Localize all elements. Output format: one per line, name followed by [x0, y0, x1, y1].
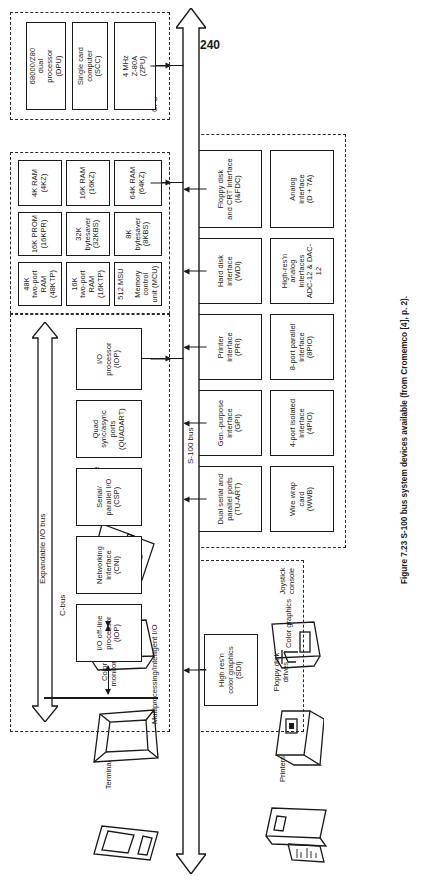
c-bus-top-link [44, 697, 59, 699]
box-serial-parallel-csp: Serial/ parallel I/O (CSP) [76, 468, 142, 526]
arrow-cbus-iop-offline [108, 666, 109, 694]
box-iop-offline: I/O off-line processor (IOP) [76, 604, 142, 662]
arrow-s100-tuart [185, 499, 207, 500]
c-bus-spine [58, 698, 158, 699]
box-io-processor-iop: I/O processor (IOP) [76, 328, 142, 390]
box-scc: Single card computer (SCC) [72, 22, 108, 110]
box-4pio: 4-port isolated interface (4PIO) [270, 390, 334, 456]
figure-page: Printers Terminal [0, 0, 432, 884]
box-16k-two-port-ram: 16K two-port RAM (16KTP) [66, 262, 110, 306]
printers-icon [262, 802, 336, 866]
box-quadart: Quad sync/async ports (QUADART) [76, 400, 142, 458]
c-bus-label: C-bus [58, 595, 67, 616]
box-32k-bytesaver: 32K bytesaver (32KBS) [66, 212, 110, 256]
arrow-s100-pri [185, 347, 207, 348]
box-8k-bytesaver: 8K bytesaver (8KBS) [114, 212, 162, 256]
arrow-memory-s100 [151, 183, 171, 184]
page-number: 240 [200, 38, 220, 52]
box-adc-dac: High-res'n analog interfaces ADC-12 & DA… [270, 238, 334, 304]
box-8pio: 8-port parallel interface (8PIO) [270, 314, 334, 380]
c-bus-rail [58, 698, 59, 699]
box-48k-two-port-ram: 48K two-port RAM (48KTP) [18, 262, 62, 306]
box-wwb: Wire wrap card (WWB) [270, 466, 334, 532]
c-bus-rail-v [58, 697, 158, 698]
box-16k-ram: 16K RAM (16KZ) [66, 160, 110, 206]
box-dpu: 68000/Z80 dual processor (DPU) [26, 22, 66, 110]
group-multiprocessing-title: Multiprocessing/Intelligent I/O [150, 624, 159, 724]
box-wdi: Hard disk interface (WDI) [198, 238, 262, 304]
figure-caption: Figure 7.23 S-100 bus system devices ava… [400, 296, 409, 584]
box-4k-ram: 4K RAM (4KZ) [18, 160, 62, 206]
arrow-s100-ifdc [185, 189, 207, 190]
arrow-s100-gpi [185, 423, 207, 424]
box-high-res-color-graphics-sdi: High res'n color graphics (SDI) [204, 634, 258, 706]
arrow-iop-s100 [151, 359, 171, 360]
box-512-msu-mcu: 512 MSU Memory control unit (MCU) [114, 262, 162, 306]
box-gpi: Gen.-purpose interface (GPI) [198, 390, 262, 456]
box-16k-prom: 16K PROM (16KPR) [18, 212, 62, 256]
box-networking-cni: Networking interface (CNI) [76, 536, 142, 594]
arrow-s100-sdi [185, 670, 207, 671]
box-tu-art: Dual serial and parallel ports (TU-ART) [198, 466, 262, 532]
arrow-s100-wdi [185, 271, 207, 272]
arrow-cpu-s100 [151, 66, 171, 67]
group-color-graphics-title: Color graphics [284, 599, 293, 648]
expandable-io-bus-label: Expandable I/O bus [38, 514, 47, 584]
box-pri: Printer interface (PRI) [198, 314, 262, 380]
terminal-icon [90, 810, 162, 866]
s100-bus-label: S-100 bus [186, 428, 195, 464]
box-ifdc: Floppy disk and CRT interface (I&FDC) [198, 150, 262, 228]
box-analog-d7a: Analog interface (D + 7A) [270, 150, 334, 228]
